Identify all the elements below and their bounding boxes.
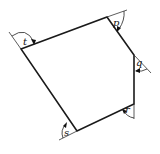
arc-p	[119, 11, 124, 29]
arrow-q-icon	[135, 68, 140, 73]
angle-q: q	[135, 57, 147, 73]
label-p: p	[113, 17, 120, 28]
label-s: s	[64, 127, 69, 138]
label-q: q	[136, 57, 142, 68]
pentagon-exterior-angles-diagram: t p q r s	[0, 0, 160, 154]
angle-s: s	[62, 122, 69, 138]
label-t: t	[23, 36, 28, 47]
pentagon	[21, 17, 134, 131]
angle-r: r	[122, 104, 134, 118]
